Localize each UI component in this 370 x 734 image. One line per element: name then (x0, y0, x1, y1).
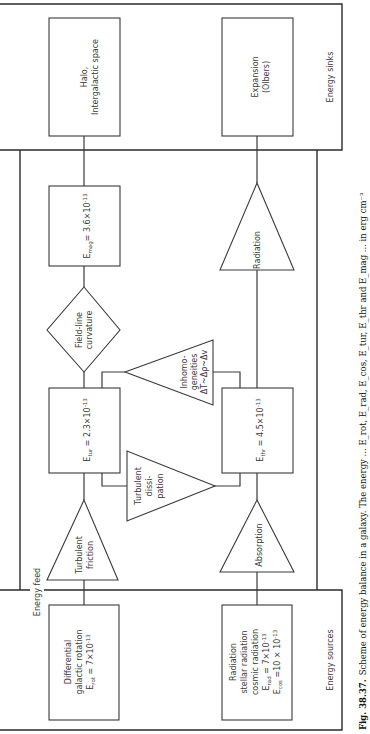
e-mag-node: Emag= 3.6×10-13 (49, 186, 120, 266)
differential-label-2: galactic rotation (75, 629, 84, 694)
expansion-label-2: (Olbers) (262, 61, 271, 93)
friction-label-2: friction (86, 541, 95, 569)
expansion-label-1: Expansion (251, 56, 260, 97)
radiation-sink-node: Radiation (220, 183, 294, 270)
radiation-source-label-2: stellar radiation (240, 630, 249, 693)
halo-label-1: Halo, (80, 67, 89, 88)
radiation-source-label-3: cosmic radiation (251, 629, 260, 695)
differential-rotation-node: Differential galactic rotation Erot = 7×… (49, 605, 119, 720)
turbulent-friction-node: Turbulent friction (47, 500, 118, 580)
e-thr-node: Ethr = 4.5×10-13 (222, 388, 293, 473)
dissipation-label-3: pation (156, 473, 165, 498)
friction-label-1: Turbulent (75, 536, 84, 575)
absorption-label: Absorption (255, 523, 264, 566)
energy-sources-label: Energy sources (326, 629, 335, 690)
expansion-node: Expansion (Olbers) (222, 18, 293, 136)
inhomogeneities-node: Inhomo- geneities ΔT~Δρ~Δv (125, 340, 213, 405)
energy-feed-label: Energy feed (33, 568, 42, 616)
halo-label-2: Intergalactic space (91, 39, 100, 115)
inhomogeneities-label-1: Inhomo- (180, 355, 189, 388)
energy-balance-diagram: Halo, Intergalactic space Expansion (Olb… (0, 0, 370, 734)
turbulent-dissipation-node: Turbulent dissi- pation (127, 451, 215, 521)
halo-node: Halo, Intergalactic space (49, 18, 120, 136)
dissipation-label-2: dissi- (145, 476, 154, 497)
inhomogeneities-label-3: ΔT~Δρ~Δv (200, 349, 209, 394)
radiation-source-label-1: Radiation (229, 643, 238, 681)
differential-label-1: Differential (64, 640, 73, 684)
dissipation-label-1: Turbulent (134, 467, 143, 506)
inhomogeneities-label-2: geneities (190, 354, 199, 391)
field-line-curvature-node: Field-line curvature (47, 287, 120, 372)
e-tur-node: Etur = 2.3×10-13 (49, 388, 120, 473)
energy-sinks-label: Energy sinks (326, 52, 335, 103)
field-line-label-1: Field-line (75, 312, 84, 348)
figure-caption: Fig. 38.37.Scheme of energy balance in a… (358, 193, 369, 730)
field-line-label-2: curvature (85, 311, 94, 350)
radiation-sink-label: Radiation (253, 231, 262, 269)
radiation-source-node: Radiation stellar radiation cosmic radia… (222, 605, 292, 720)
absorption-node: Absorption (220, 500, 294, 572)
